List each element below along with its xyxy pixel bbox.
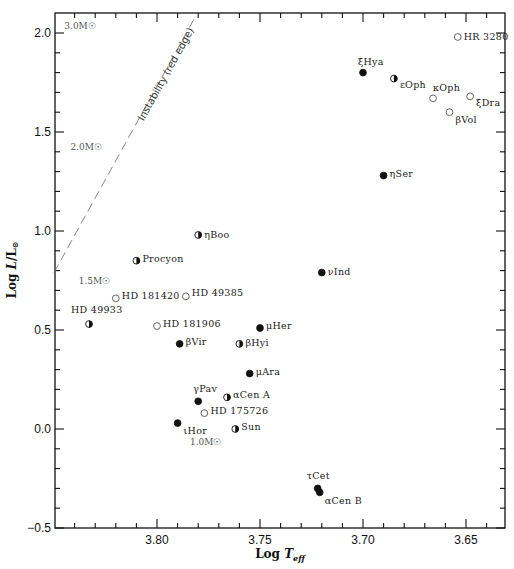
star-point: τCet	[307, 470, 330, 491]
star-label: ξHya	[358, 56, 384, 67]
star-point: ξHya	[358, 56, 384, 76]
y-tick-label: 0.0	[34, 422, 51, 436]
filled-circle-icon	[195, 398, 202, 405]
star-point: γPav	[193, 383, 217, 404]
open-circle-icon	[430, 95, 437, 102]
star-point: HD 175726	[201, 405, 268, 416]
filled-circle-icon	[257, 325, 264, 332]
open-circle-icon	[467, 93, 474, 100]
filled-circle-icon	[318, 269, 325, 276]
star-label: νInd	[328, 266, 351, 277]
filled-circle-icon	[174, 420, 181, 427]
x-tick-label: 3.80	[145, 533, 169, 547]
star-point: HD 49933	[71, 304, 123, 327]
x-tick-label: 3.75	[248, 533, 272, 547]
open-circle-icon	[112, 295, 119, 302]
star-label: βVir	[186, 336, 207, 347]
star-label: βHyi	[245, 337, 268, 348]
star-point: μHer	[257, 320, 292, 331]
star-label: γPav	[193, 383, 217, 394]
open-circle-icon	[201, 410, 208, 417]
star-point: νInd	[318, 266, 350, 277]
star-label: μHer	[266, 320, 292, 331]
star-label: ιHor	[184, 425, 208, 436]
star-label: αCen B	[325, 495, 362, 506]
star-point: HR 3280	[454, 31, 508, 42]
star-points: HR 3280ξHyaεOphκOphξDraβVolηSerηBooProcy…	[71, 31, 508, 506]
star-point: βHyi	[236, 337, 269, 348]
star-label: εOph	[400, 79, 426, 90]
star-label: Procyon	[142, 253, 183, 264]
star-point: ιHor	[174, 420, 207, 436]
star-point: HD 181906	[154, 318, 221, 329]
star-label: αCen A	[233, 389, 270, 400]
star-point: ξDra	[467, 93, 501, 108]
star-label: HD 49385	[192, 287, 244, 298]
filled-circle-icon	[360, 69, 367, 76]
mass-track-label: 1.0M☉	[190, 437, 222, 447]
star-label: ηSer	[390, 168, 414, 179]
star-point: κOph	[430, 82, 461, 101]
star-point: HD 181420	[112, 290, 179, 301]
y-axis-title: Log L/L⊙	[5, 242, 20, 299]
open-circle-icon	[182, 293, 189, 300]
star-label: HD 181420	[122, 290, 180, 301]
star-label: HD 181906	[163, 318, 221, 329]
star-label: μAra	[256, 366, 280, 377]
filled-circle-icon	[380, 172, 387, 179]
star-label: βVol	[456, 114, 477, 125]
star-label: HD 175726	[210, 405, 268, 416]
star-point: βVir	[176, 336, 207, 347]
open-circle-icon	[446, 109, 453, 116]
star-label: Sun	[241, 421, 261, 432]
mass-track-label: 2.0M☉	[70, 142, 102, 152]
filled-circle-icon	[246, 370, 253, 377]
star-point: HD 49385	[182, 287, 243, 299]
star-point: εOph	[391, 75, 427, 89]
y-tick-label: 1.5	[34, 125, 51, 139]
x-tick-label: 3.65	[454, 533, 478, 547]
star-point: μAra	[246, 366, 280, 377]
y-tick-label: −0.5	[27, 521, 51, 535]
star-label: ξDra	[476, 97, 500, 108]
star-point: βVol	[446, 109, 477, 125]
star-label: τCet	[307, 470, 330, 481]
x-axis-ticks: 3.803.753.703.65	[75, 13, 487, 547]
x-axis-title: Log Teff	[255, 547, 306, 563]
star-label: κOph	[433, 82, 460, 93]
star-point: αCen A	[224, 389, 271, 400]
star-point: ηBoo	[195, 229, 230, 240]
hr-diagram: 3.803.753.703.65 −0.50.00.51.01.52.0 Ins…	[0, 0, 514, 569]
star-label: HD 49933	[71, 304, 123, 315]
x-tick-label: 3.70	[351, 533, 375, 547]
y-tick-label: 0.5	[34, 323, 51, 337]
mass-track-label: 3.0M☉	[64, 21, 96, 31]
filled-circle-icon	[316, 489, 323, 496]
mass-track-label: 1.5M☉	[79, 276, 111, 286]
star-label: ηBoo	[204, 229, 229, 240]
star-point: Sun	[232, 421, 261, 432]
open-circle-icon	[154, 323, 161, 330]
star-label: HR 3280	[464, 31, 509, 42]
star-point: ηSer	[380, 168, 413, 179]
star-point: Procyon	[133, 253, 184, 264]
instability-red-edge-label: Instability (red edge)	[136, 26, 196, 123]
y-tick-label: 2.0	[34, 26, 51, 40]
filled-circle-icon	[176, 340, 183, 347]
open-circle-icon	[454, 34, 461, 41]
star-point: αCen B	[316, 489, 362, 506]
y-tick-label: 1.0	[34, 224, 51, 238]
